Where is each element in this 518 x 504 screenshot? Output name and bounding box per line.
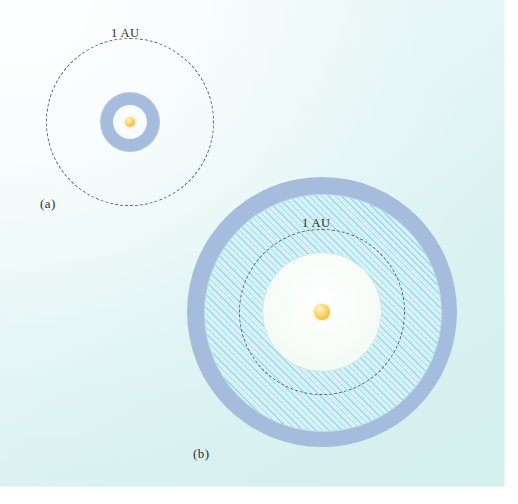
panel-b: 1 AU (b): [180, 170, 480, 480]
page-right-margin: [504, 0, 518, 504]
panel-a-label: (a): [40, 196, 56, 212]
page-bottom-margin: [0, 486, 518, 504]
panel-a-orbit-label: 1 AU: [111, 26, 139, 41]
panel-b-orbit-label: 1 AU: [302, 216, 330, 231]
panel-a-star-icon: [125, 117, 135, 127]
habitable-zone-figure: 1 AU (a) 1 AU (b): [0, 0, 518, 504]
panel-b-label: (b): [193, 446, 209, 462]
panel-b-star-icon: [314, 304, 330, 320]
